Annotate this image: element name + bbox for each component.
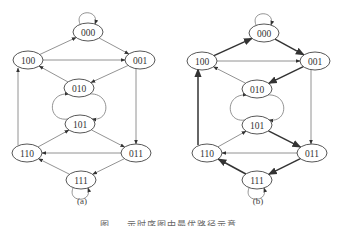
state-node-001: 001 [300,52,330,70]
edge-101-to-010 [89,94,106,119]
state-node-010: 010 [242,80,272,98]
edge-101-to-010 [267,95,284,120]
panel-b: 000100001010101110011111 [187,14,330,200]
panel-a-label: (a) [77,196,87,206]
state-node-101: 101 [242,116,272,134]
edge-000-to-001 [99,38,129,54]
state-node-111: 111 [66,171,96,189]
state-node-000: 000 [73,23,103,41]
edge-011-to-111 [93,159,125,175]
edge-111-to-110 [218,159,246,174]
state-label: 011 [305,149,319,159]
edge-001-to-010 [91,65,128,82]
state-node-100: 100 [13,51,43,69]
state-node-010: 010 [64,79,94,97]
state-label: 110 [20,149,34,159]
state-node-100: 100 [187,52,217,70]
state-node-000: 000 [249,24,279,42]
panel-b-label: (b) [253,196,264,206]
state-label: 010 [250,85,265,95]
edge-101-to-011 [91,130,124,147]
state-label: 110 [200,149,214,159]
state-label: 001 [308,57,323,67]
edge-000-to-000 [79,13,96,24]
edge-001-to-010 [269,67,304,84]
state-label: 111 [250,176,264,186]
state-label: 011 [129,149,143,159]
edge-100-to-000 [40,38,76,55]
edge-000-to-000 [255,14,272,25]
edge-011-to-111 [269,159,301,175]
state-transition-diagram: 000100001010101110011111 000100001010101… [0,0,337,226]
edge-000-to-001 [275,39,304,55]
state-node-101: 101 [65,115,95,133]
edge-110-to-101 [38,130,69,147]
state-node-110: 110 [12,144,42,162]
edge-100-to-000 [214,38,252,55]
state-label: 101 [250,121,265,131]
edge-111-to-110 [39,159,70,174]
state-label: 100 [21,56,36,66]
state-label: 000 [81,28,96,38]
state-node-110: 110 [192,144,222,162]
state-node-001: 001 [125,51,155,69]
state-label: 010 [72,84,87,94]
state-label: 111 [74,176,88,186]
panel-a: 000100001010101110011111 [12,13,155,200]
figure-caption: 图 … 示时序图中最优路径示意 [0,218,337,226]
edge-010-to-101 [230,95,247,120]
state-label: 001 [133,56,148,66]
state-label: 100 [195,57,210,67]
edge-110-to-101 [218,131,246,147]
state-node-011: 011 [297,144,327,162]
state-node-011: 011 [121,144,151,162]
state-label: 000 [257,29,272,39]
edge-101-to-011 [268,131,300,147]
state-node-111: 111 [242,171,272,189]
edge-010-to-100 [213,67,245,83]
state-label: 101 [73,120,88,130]
edge-010-to-100 [39,66,68,82]
edge-010-to-101 [52,94,69,119]
